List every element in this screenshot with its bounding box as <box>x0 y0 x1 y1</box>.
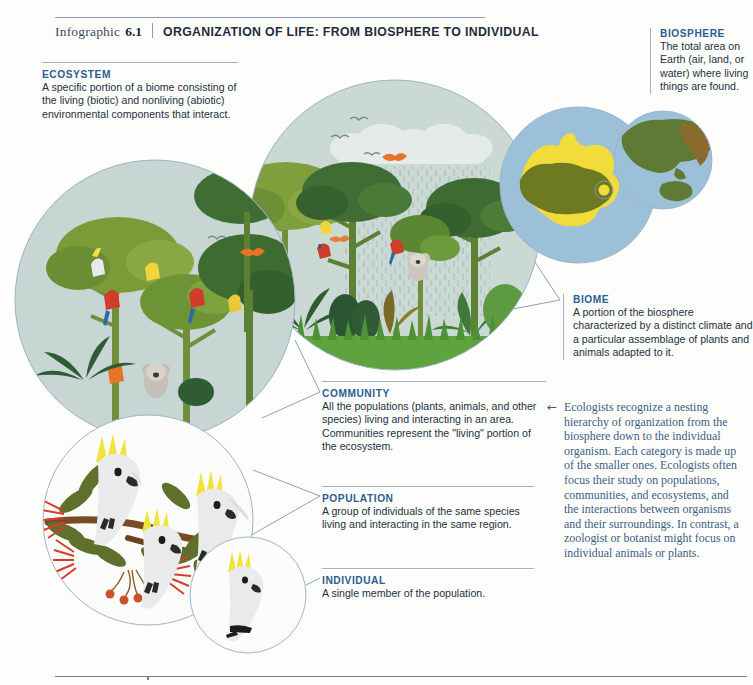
callout-title-individual: INDIVIDUAL <box>322 575 534 586</box>
callout-rule <box>42 62 238 63</box>
explanatory-note-body: Ecologists recognize a nesting hierarchy… <box>564 400 739 560</box>
callout-body-individual: A single member of the population. <box>322 587 534 600</box>
callout-population: POPULATION A group of individuals of the… <box>322 486 534 532</box>
individual-scene-circle <box>190 537 306 653</box>
page-title: ORGANIZATION OF LIFE: FROM BIOSPHERE TO … <box>163 25 539 39</box>
callout-body-biosphere: The total area on Earth (air, land, or w… <box>660 40 752 94</box>
infographic-number: 6.1 <box>125 24 142 40</box>
callout-rule <box>322 568 534 569</box>
callout-rule <box>322 381 546 382</box>
callout-title-population: POPULATION <box>322 493 534 504</box>
biosphere-globe <box>614 111 712 209</box>
header-divider <box>152 23 153 38</box>
header: Infographic 6.1 ORGANIZATION OF LIFE: FR… <box>55 21 539 40</box>
callout-body-population: A group of individuals of the same speci… <box>322 505 534 532</box>
footer-tick <box>147 676 149 680</box>
explanatory-note: ← Ecologists recognize a nesting hierarc… <box>564 400 742 561</box>
callout-biosphere: BIOSPHERE The total area on Earth (air, … <box>650 28 752 94</box>
callout-title-community: COMMUNITY <box>322 388 546 399</box>
callout-ecosystem: ECOSYSTEM A specific portion of a biome … <box>42 62 238 121</box>
left-arrow-icon: ← <box>547 400 557 415</box>
callout-biome: BIOME A portion of the biosphere charact… <box>563 294 753 360</box>
callout-body-ecosystem: A specific portion of a biome consisting… <box>42 81 238 121</box>
callout-title-biosphere: BIOSPHERE <box>660 28 752 39</box>
callout-body-biome: A portion of the biosphere characterized… <box>573 306 753 360</box>
callout-title-ecosystem: ECOSYSTEM <box>42 69 238 80</box>
callout-rule <box>322 486 534 487</box>
callout-body-community: All the populations (plants, animals, an… <box>322 400 546 454</box>
callout-individual: INDIVIDUAL A single member of the popula… <box>322 568 534 600</box>
footer-rule <box>55 676 747 677</box>
callout-title-biome: BIOME <box>573 294 753 305</box>
callout-community: COMMUNITY All the populations (plants, a… <box>322 381 546 454</box>
header-rule <box>55 17 485 18</box>
community-scene-circle <box>15 160 298 452</box>
infographic-label: Infographic <box>55 24 120 40</box>
australia-small <box>659 181 692 201</box>
